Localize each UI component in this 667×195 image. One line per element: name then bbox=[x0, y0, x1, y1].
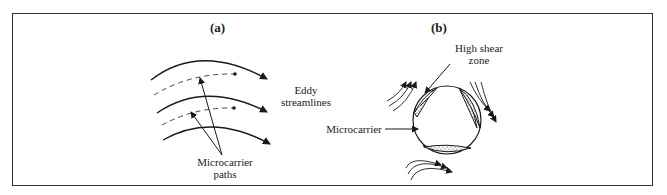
panel-a-streamlines bbox=[151, 61, 270, 144]
microcarrier-label: Microcarrier bbox=[324, 123, 384, 135]
panel-a-microcarrier-paths bbox=[154, 72, 237, 125]
streamlines-text: streamlines bbox=[276, 96, 336, 108]
zone-text: zone bbox=[448, 54, 510, 66]
microcarrier-paths-label: Microcarrier paths bbox=[190, 156, 260, 180]
eddy-text: Eddy bbox=[276, 84, 336, 96]
microcarrier-text: Microcarrier bbox=[190, 156, 260, 168]
eddy-streamlines-label: Eddy streamlines bbox=[276, 84, 336, 108]
high-shear-text: High shear bbox=[448, 42, 510, 54]
panel-b-microcarrier bbox=[413, 86, 481, 154]
panel-a-label: (a) bbox=[210, 20, 225, 36]
panel-b-pointer-arrows bbox=[385, 64, 450, 129]
high-shear-zone-label: High shear zone bbox=[448, 42, 510, 66]
panel-b-label: (b) bbox=[431, 20, 447, 36]
panel-a-pointer-arrows bbox=[191, 78, 222, 155]
paths-text: paths bbox=[190, 168, 260, 180]
